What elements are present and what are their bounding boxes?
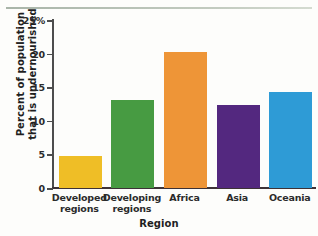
bar-chart-figure: Percent of population that is undernouri…: [0, 0, 318, 236]
bar[interactable]: [269, 92, 312, 188]
y-tick-label: 5: [39, 149, 45, 160]
plot-area: 0510152025%: [53, 20, 316, 188]
y-tick-label: 25%: [23, 15, 45, 26]
bar[interactable]: [217, 105, 260, 188]
x-category-label-line2: regions: [102, 203, 163, 214]
x-category-label: Developingregions: [102, 192, 163, 214]
y-tick-label: 10: [32, 115, 45, 126]
x-category-label: Asia: [207, 192, 268, 203]
bar[interactable]: [111, 100, 154, 188]
x-category-label: Developedregions: [49, 192, 110, 214]
x-category-label-line1: Asia: [207, 192, 268, 203]
x-category-label: Africa: [154, 192, 215, 203]
x-category-label-line2: regions: [49, 203, 110, 214]
y-tick-mark: [47, 121, 53, 123]
x-category-label-line1: Developing: [102, 192, 163, 203]
y-tick-label: 0: [39, 183, 45, 194]
header-rule: [6, 7, 312, 9]
y-tick-mark: [47, 54, 53, 56]
y-tick-mark: [47, 154, 53, 156]
x-category-label-line1: Developed: [49, 192, 110, 203]
y-tick-mark: [47, 20, 53, 22]
x-category-label: Oceania: [259, 192, 318, 203]
x-axis-title: Region: [0, 218, 318, 229]
y-tick-label: 20: [32, 48, 45, 59]
y-tick-label: 15: [32, 82, 45, 93]
y-tick-mark: [47, 87, 53, 89]
bar[interactable]: [59, 156, 102, 188]
bar[interactable]: [164, 52, 207, 188]
x-category-label-line1: Africa: [154, 192, 215, 203]
x-category-label-line1: Oceania: [259, 192, 318, 203]
y-tick-mark: [47, 188, 53, 190]
